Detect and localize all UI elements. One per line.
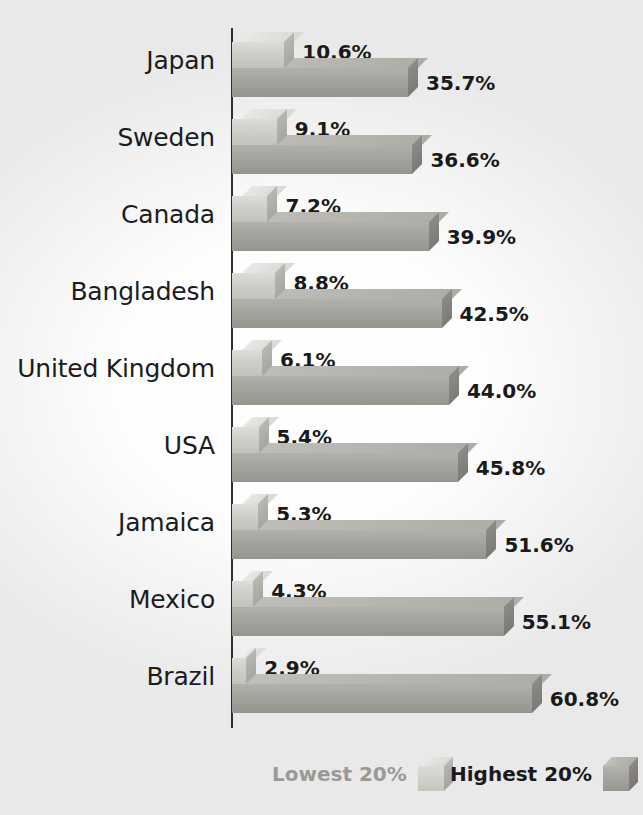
category-label: Brazil bbox=[0, 662, 215, 692]
bar-row: Mexico4.3%55.1% bbox=[0, 567, 643, 644]
category-label: Japan bbox=[0, 46, 215, 76]
category-label: Sweden bbox=[0, 123, 215, 153]
chart-legend: Lowest 20% Highest 20% bbox=[0, 752, 643, 800]
value-label-highest-20: 36.6% bbox=[430, 148, 499, 172]
category-label: Canada bbox=[0, 200, 215, 230]
bar-row: USA5.4%45.8% bbox=[0, 413, 643, 490]
bar-lowest-20[interactable] bbox=[232, 196, 267, 222]
cube-icon bbox=[603, 757, 629, 791]
bar-lowest-20[interactable] bbox=[232, 504, 258, 530]
legend-item-highest-20[interactable]: Highest 20% bbox=[450, 752, 629, 796]
bar-lowest-20[interactable] bbox=[232, 273, 275, 299]
cube-icon bbox=[418, 757, 444, 791]
bar-highest-20[interactable] bbox=[232, 530, 486, 559]
value-label-highest-20: 39.9% bbox=[447, 225, 516, 249]
category-label: United Kingdom bbox=[0, 354, 215, 384]
bar-lowest-20[interactable] bbox=[232, 42, 284, 68]
bar-lowest-20[interactable] bbox=[232, 658, 246, 684]
category-label: Bangladesh bbox=[0, 277, 215, 307]
value-label-highest-20: 51.6% bbox=[504, 533, 573, 557]
bar-row: Bangladesh8.8%42.5% bbox=[0, 259, 643, 336]
bar-row: United Kingdom6.1%44.0% bbox=[0, 336, 643, 413]
bar-row: Canada7.2%39.9% bbox=[0, 182, 643, 259]
bar-row: Sweden9.1%36.6% bbox=[0, 105, 643, 182]
bar-lowest-20[interactable] bbox=[232, 119, 277, 145]
legend-item-lowest-20[interactable]: Lowest 20% bbox=[272, 752, 444, 796]
bar-highest-20[interactable] bbox=[232, 684, 532, 713]
bar-highest-20[interactable] bbox=[232, 299, 442, 328]
bar-lowest-20[interactable] bbox=[232, 581, 253, 607]
value-label-highest-20: 55.1% bbox=[522, 610, 591, 634]
value-label-highest-20: 42.5% bbox=[460, 302, 529, 326]
value-label-highest-20: 45.8% bbox=[476, 456, 545, 480]
bar-highest-20[interactable] bbox=[232, 376, 449, 405]
bar-lowest-20[interactable] bbox=[232, 350, 262, 376]
value-label-highest-20: 60.8% bbox=[550, 687, 619, 711]
category-label: Jamaica bbox=[0, 508, 215, 538]
bar-row: Jamaica5.3%51.6% bbox=[0, 490, 643, 567]
value-label-highest-20: 35.7% bbox=[426, 71, 495, 95]
bar-highest-20[interactable] bbox=[232, 145, 412, 174]
category-label: Mexico bbox=[0, 585, 215, 615]
legend-label-highest-20: Highest 20% bbox=[450, 762, 592, 786]
value-label-highest-20: 44.0% bbox=[467, 379, 536, 403]
bar-highest-20[interactable] bbox=[232, 68, 408, 97]
legend-label-lowest-20: Lowest 20% bbox=[272, 762, 407, 786]
category-label: USA bbox=[0, 431, 215, 461]
bar-row: Brazil2.9%60.8% bbox=[0, 644, 643, 721]
bar-highest-20[interactable] bbox=[232, 222, 429, 251]
bar-highest-20[interactable] bbox=[232, 607, 504, 636]
plot-area: Japan10.6%35.7%Sweden9.1%36.6%Canada7.2%… bbox=[0, 0, 643, 735]
bar-chart: Japan10.6%35.7%Sweden9.1%36.6%Canada7.2%… bbox=[0, 0, 643, 815]
bar-row: Japan10.6%35.7% bbox=[0, 28, 643, 105]
bar-lowest-20[interactable] bbox=[232, 427, 259, 453]
bar-highest-20[interactable] bbox=[232, 453, 458, 482]
